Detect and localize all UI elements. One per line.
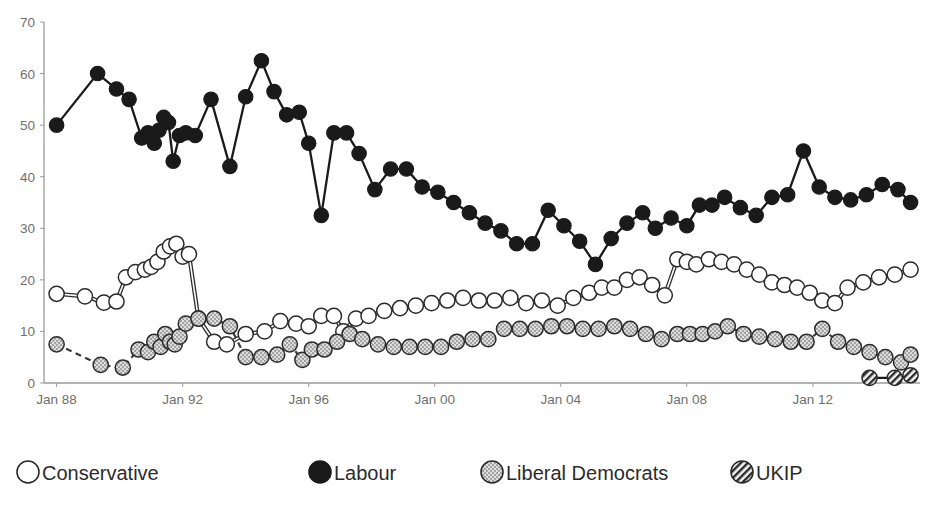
- data-point-labour[interactable]: [620, 216, 634, 230]
- data-point-labour[interactable]: [903, 195, 917, 209]
- data-point-liberal-democrats[interactable]: [270, 347, 285, 362]
- data-point-liberal-democrats[interactable]: [238, 350, 253, 365]
- data-point-liberal-democrats[interactable]: [465, 332, 480, 347]
- data-point-liberal-democrats[interactable]: [49, 337, 64, 352]
- data-point-liberal-democrats[interactable]: [607, 319, 622, 334]
- data-point-liberal-democrats[interactable]: [654, 332, 669, 347]
- data-point-liberal-democrats[interactable]: [512, 321, 527, 336]
- data-point-liberal-democrats[interactable]: [191, 311, 206, 326]
- data-point-liberal-democrats[interactable]: [878, 350, 893, 365]
- data-point-labour[interactable]: [733, 200, 747, 214]
- data-point-labour[interactable]: [399, 162, 413, 176]
- data-point-labour[interactable]: [541, 203, 555, 217]
- data-point-liberal-democrats[interactable]: [355, 332, 370, 347]
- data-point-labour[interactable]: [415, 180, 429, 194]
- data-point-liberal-democrats[interactable]: [528, 321, 543, 336]
- data-point-liberal-democrats[interactable]: [752, 329, 767, 344]
- data-point-conservative[interactable]: [827, 295, 842, 310]
- data-point-liberal-democrats[interactable]: [115, 360, 130, 375]
- data-point-conservative[interactable]: [257, 324, 272, 339]
- data-point-labour[interactable]: [166, 154, 180, 168]
- data-point-labour[interactable]: [604, 231, 618, 245]
- data-point-conservative[interactable]: [440, 293, 455, 308]
- data-point-labour[interactable]: [339, 126, 353, 140]
- data-point-labour[interactable]: [147, 136, 161, 150]
- data-point-liberal-democrats[interactable]: [254, 350, 269, 365]
- data-point-labour[interactable]: [648, 221, 662, 235]
- data-point-labour[interactable]: [161, 115, 175, 129]
- data-point-liberal-democrats[interactable]: [623, 321, 638, 336]
- data-point-liberal-democrats[interactable]: [559, 319, 574, 334]
- data-point-labour[interactable]: [875, 177, 889, 191]
- data-point-conservative[interactable]: [503, 290, 518, 305]
- data-point-labour[interactable]: [301, 136, 315, 150]
- data-point-ukip[interactable]: [903, 368, 918, 383]
- data-point-conservative[interactable]: [566, 290, 581, 305]
- legend-item-ukip[interactable]: UKIP: [731, 461, 803, 484]
- data-point-conservative[interactable]: [856, 275, 871, 290]
- data-point-liberal-democrats[interactable]: [370, 337, 385, 352]
- data-point-liberal-democrats[interactable]: [799, 334, 814, 349]
- data-point-liberal-democrats[interactable]: [93, 357, 108, 372]
- data-point-liberal-democrats[interactable]: [496, 321, 511, 336]
- data-point-conservative[interactable]: [657, 288, 672, 303]
- data-point-labour[interactable]: [765, 190, 779, 204]
- data-point-conservative[interactable]: [181, 246, 196, 261]
- data-point-conservative[interactable]: [455, 290, 470, 305]
- data-point-liberal-democrats[interactable]: [449, 334, 464, 349]
- data-point-liberal-democrats[interactable]: [222, 319, 237, 334]
- data-point-labour[interactable]: [204, 92, 218, 106]
- data-point-liberal-democrats[interactable]: [830, 334, 845, 349]
- data-point-ukip[interactable]: [887, 370, 902, 385]
- data-point-labour[interactable]: [109, 82, 123, 96]
- data-point-liberal-democrats[interactable]: [386, 339, 401, 354]
- data-point-labour[interactable]: [431, 185, 445, 199]
- data-point-labour[interactable]: [557, 219, 571, 233]
- data-point-labour[interactable]: [859, 188, 873, 202]
- data-point-labour[interactable]: [812, 180, 826, 194]
- data-point-labour[interactable]: [279, 108, 293, 122]
- data-point-conservative[interactable]: [903, 262, 918, 277]
- data-point-conservative[interactable]: [273, 314, 288, 329]
- data-point-labour[interactable]: [525, 237, 539, 251]
- data-point-labour[interactable]: [636, 206, 650, 220]
- data-point-labour[interactable]: [494, 224, 508, 238]
- data-point-labour[interactable]: [122, 92, 136, 106]
- data-point-conservative[interactable]: [109, 294, 124, 309]
- data-point-conservative[interactable]: [887, 267, 902, 282]
- data-point-labour[interactable]: [223, 159, 237, 173]
- data-point-liberal-democrats[interactable]: [544, 319, 559, 334]
- data-point-labour[interactable]: [292, 105, 306, 119]
- legend-item-liberal-democrats[interactable]: Liberal Democrats: [481, 461, 668, 484]
- legend-item-labour[interactable]: Labour: [309, 461, 397, 484]
- data-point-liberal-democrats[interactable]: [815, 321, 830, 336]
- data-point-liberal-democrats[interactable]: [736, 326, 751, 341]
- data-point-conservative[interactable]: [326, 308, 341, 323]
- data-point-conservative[interactable]: [392, 301, 407, 316]
- data-point-labour[interactable]: [267, 84, 281, 98]
- data-point-liberal-democrats[interactable]: [433, 339, 448, 354]
- data-point-conservative[interactable]: [377, 303, 392, 318]
- data-point-conservative[interactable]: [519, 295, 534, 310]
- data-point-conservative[interactable]: [840, 280, 855, 295]
- data-point-conservative[interactable]: [424, 295, 439, 310]
- data-point-liberal-democrats[interactable]: [783, 334, 798, 349]
- data-point-conservative[interactable]: [534, 293, 549, 308]
- data-point-conservative[interactable]: [487, 293, 502, 308]
- data-point-conservative[interactable]: [471, 293, 486, 308]
- data-point-conservative[interactable]: [645, 277, 660, 292]
- data-point-liberal-democrats[interactable]: [481, 332, 496, 347]
- data-point-labour[interactable]: [238, 90, 252, 104]
- data-point-liberal-democrats[interactable]: [575, 321, 590, 336]
- data-point-conservative[interactable]: [77, 289, 92, 304]
- data-point-liberal-democrats[interactable]: [591, 321, 606, 336]
- data-point-conservative[interactable]: [301, 319, 316, 334]
- data-point-liberal-democrats[interactable]: [720, 319, 735, 334]
- data-point-liberal-democrats[interactable]: [846, 339, 861, 354]
- data-point-labour[interactable]: [509, 237, 523, 251]
- data-point-labour[interactable]: [314, 208, 328, 222]
- data-point-labour[interactable]: [828, 190, 842, 204]
- data-point-labour[interactable]: [478, 216, 492, 230]
- data-point-labour[interactable]: [368, 182, 382, 196]
- data-point-labour[interactable]: [462, 206, 476, 220]
